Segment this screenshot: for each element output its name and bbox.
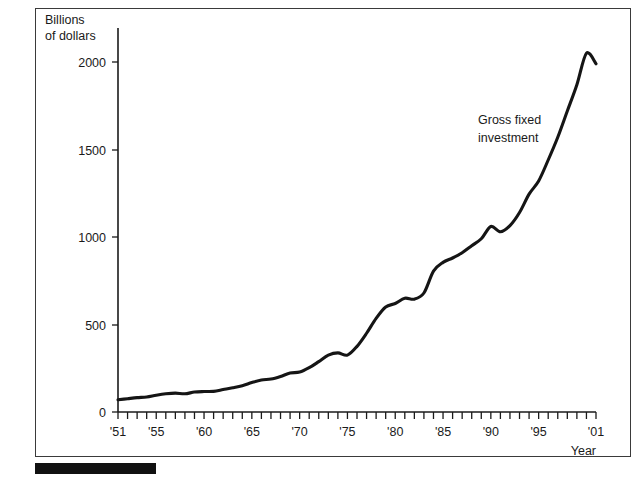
x-tick-label-1980: '80 <box>387 425 403 439</box>
x-tick-label-1990: '90 <box>483 425 499 439</box>
x-tick-label-1975: '75 <box>339 425 355 439</box>
x-tick-label-2001: '01 <box>588 425 604 439</box>
x-tick-label-1985: '85 <box>435 425 451 439</box>
annotation-line1: Gross fixed <box>478 113 541 127</box>
x-axis-title: Year <box>571 444 596 458</box>
y-axis-ticks: 0 500 1000 1500 2000 <box>78 56 118 420</box>
y-tick-label-2000: 2000 <box>78 56 106 70</box>
x-tick-label-1951: '51 <box>110 425 126 439</box>
chart-figure: Billions of dollars 0 500 1000 1500 2000… <box>0 0 642 477</box>
x-tick-label-1960: '60 <box>196 425 212 439</box>
series-gross-fixed-investment <box>118 53 596 400</box>
y-axis-title-line1: Billions <box>45 13 85 27</box>
y-tick-label-500: 500 <box>85 319 106 333</box>
x-tick-label-1965: '65 <box>244 425 260 439</box>
y-tick-label-1500: 1500 <box>78 144 106 158</box>
x-axis-ticks <box>118 412 596 419</box>
x-tick-label-1995: '95 <box>530 425 546 439</box>
x-axis-tick-labels: '51'55'60'65'70'75'80'85'90'95'01 <box>110 425 604 439</box>
y-tick-label-1000: 1000 <box>78 231 106 245</box>
annotation-line2: investment <box>478 131 539 145</box>
x-tick-label-1970: '70 <box>291 425 307 439</box>
line-chart-svg: Billions of dollars 0 500 1000 1500 2000… <box>0 0 642 477</box>
x-tick-label-1955: '55 <box>148 425 164 439</box>
y-axis-title-line2: of dollars <box>45 29 96 43</box>
y-tick-label-0: 0 <box>99 406 106 420</box>
